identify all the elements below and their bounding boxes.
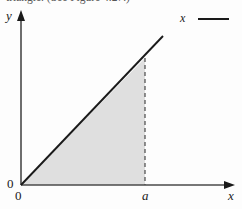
x-tick-label-a: a <box>142 188 149 204</box>
legend-symbol-x: x <box>180 11 185 26</box>
legend-line-swatch <box>198 18 229 20</box>
legend: x <box>180 11 236 27</box>
y-axis-label: y <box>6 8 12 24</box>
plot-canvas <box>0 0 242 209</box>
x-axis-label: x <box>228 188 234 204</box>
figure-container: triangle. (See Figure 4.27.) y x 0 0 a x <box>0 0 242 209</box>
x-origin-tick-label: 0 <box>15 188 22 204</box>
y-axis-arrowhead <box>17 10 25 21</box>
y-origin-tick-label: 0 <box>7 176 14 192</box>
